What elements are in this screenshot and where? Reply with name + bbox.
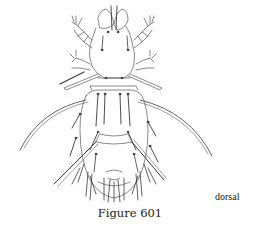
figure: Figure 601 dorsal	[0, 0, 259, 232]
figure-caption: Figure 601	[85, 206, 175, 220]
propodosoma	[89, 26, 134, 78]
view-label: dorsal	[215, 191, 239, 202]
chelicerae	[98, 6, 128, 30]
legs-front	[60, 16, 162, 90]
